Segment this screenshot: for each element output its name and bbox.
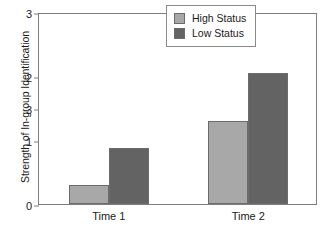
y-axis-tick-mark	[34, 205, 39, 206]
x-axis-category-label: Time 2	[232, 210, 265, 222]
bar	[109, 148, 149, 204]
bar-chart-figure: Strength of In-group Identification 3231…	[0, 0, 326, 231]
y-axis-tick-label: 3	[26, 105, 32, 116]
legend-item-label: High Status	[192, 13, 246, 24]
bar	[208, 121, 248, 204]
legend-item: Low Status	[174, 26, 246, 41]
legend-color-swatch	[174, 13, 185, 24]
y-axis-tick: 3	[26, 105, 39, 116]
bar	[248, 73, 288, 204]
y-axis-tick-label: 3	[26, 9, 32, 20]
bar	[69, 185, 109, 204]
legend-item: High Status	[174, 11, 246, 26]
x-axis-category-label: Time 1	[92, 210, 125, 222]
y-axis-tick: 2	[26, 73, 39, 84]
chart-legend: High StatusLow Status	[166, 5, 256, 47]
legend-item-label: Low Status	[192, 28, 244, 39]
y-axis-tick-label: 2	[26, 73, 32, 84]
y-axis-tick-label: 0	[26, 201, 32, 212]
y-axis-tick: 3	[26, 9, 39, 20]
legend-color-swatch	[174, 28, 185, 39]
y-axis-tick: 1	[26, 137, 39, 148]
y-axis-tick-label: 1	[26, 137, 32, 148]
y-axis-tick: 0	[26, 201, 39, 212]
